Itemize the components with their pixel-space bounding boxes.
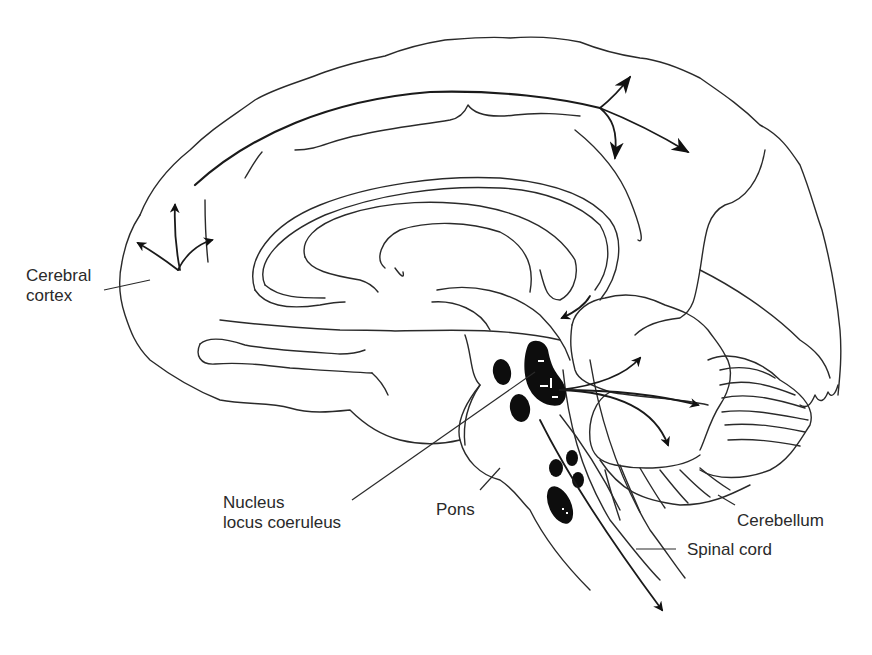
label-cerebral-cortex-line1: Cerebral (26, 266, 91, 286)
label-spinal-cord: Spinal cord (687, 540, 772, 560)
brainstem-nuclei (491, 341, 584, 528)
thalamus-midbrain (198, 287, 570, 395)
label-nlc-line2: locus coeruleus (223, 513, 341, 533)
cerebellum-structure (571, 295, 838, 520)
label-cerebral-cortex: Cerebral cortex (26, 266, 91, 306)
raphe-nucleus (491, 358, 513, 387)
label-cerebral-cortex-line2: cortex (26, 286, 91, 306)
nucleus-locus-coeruleus (524, 341, 566, 406)
projection-pathways (138, 77, 698, 610)
label-pons: Pons (436, 500, 475, 520)
leader-lines (104, 280, 735, 549)
label-nucleus-locus-coeruleus: Nucleus locus coeruleus (223, 493, 341, 533)
label-nlc-line1: Nucleus (223, 493, 341, 513)
corpus-callosum (253, 177, 619, 306)
label-cerebellum: Cerebellum (737, 511, 824, 531)
